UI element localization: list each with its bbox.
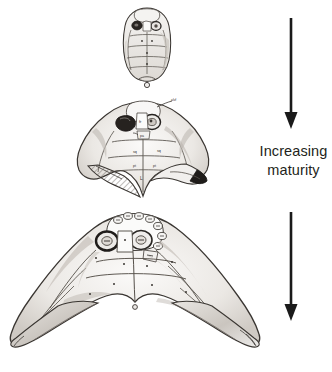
adult-skull	[10, 213, 260, 347]
ontogenetic-series-figure: alvf fr pa	[0, 0, 332, 372]
juvenile-skull	[124, 8, 171, 88]
svg-text:pt: pt	[153, 164, 156, 168]
subadult-skull: alvf fr pa	[77, 98, 208, 197]
svg-text:L: L	[140, 176, 143, 181]
lower-maturity-arrow	[285, 212, 298, 321]
svg-text:sq: sq	[133, 150, 137, 154]
maturity-annotation-layer: Increasing maturity	[255, 0, 332, 372]
svg-text:alvf: alvf	[171, 98, 176, 102]
maturity-caption: Increasing maturity	[255, 142, 332, 179]
specimen-drawings-layer: alvf fr pa	[0, 0, 265, 372]
upper-maturity-arrow	[285, 18, 298, 129]
svg-text:pa: pa	[140, 134, 144, 138]
svg-text:pt: pt	[133, 164, 136, 168]
maturity-caption-line-1: Increasing	[255, 142, 332, 161]
svg-text:sq: sq	[157, 149, 161, 153]
maturity-caption-line-2: maturity	[255, 161, 332, 180]
